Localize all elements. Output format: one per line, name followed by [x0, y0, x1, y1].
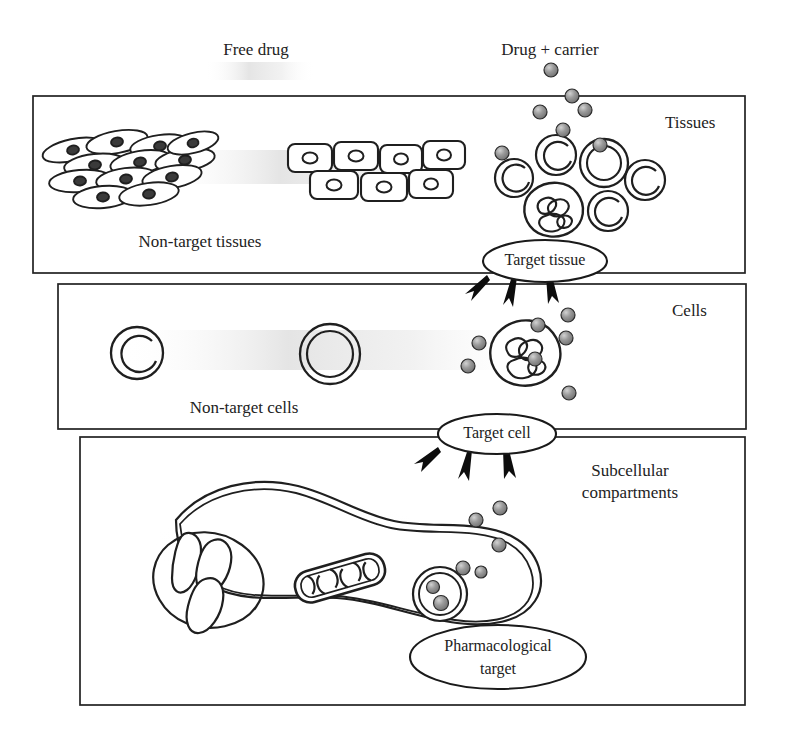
bubble-label-pharmacological-target-line2: target — [480, 660, 516, 678]
figure-canvas: Free drug Drug + carrier Tissues Non-tar… — [0, 0, 785, 748]
bubble-label-target-cell: Target cell — [463, 424, 530, 442]
target-tissue-cells — [495, 135, 665, 237]
drug-carrier-particles-tissue — [495, 63, 607, 160]
subcellular-endosome — [413, 567, 467, 621]
label-drug-carrier: Drug + carrier — [501, 40, 598, 60]
crescent-cell — [625, 160, 665, 200]
panel-label-subcellular-line2: compartments — [582, 483, 678, 503]
label-non-target-tissues: Non-target tissues — [139, 232, 262, 252]
non-target-fibroblast-cluster — [40, 126, 220, 211]
panel-label-tissues: Tissues — [665, 113, 715, 133]
bubble-label-pharmacological-target-line1: Pharmacological — [444, 637, 552, 655]
crescent-cell — [588, 191, 628, 231]
bubble-label-target-tissue: Target tissue — [505, 251, 586, 269]
target-cell-body — [490, 320, 560, 385]
pharmacological-target-bubble — [410, 625, 586, 689]
label-free-drug: Free drug — [223, 40, 289, 60]
lobed-nucleus-cell — [524, 183, 583, 237]
panel-label-subcellular-line1: Subcellular — [591, 461, 668, 481]
crescent-cell — [495, 159, 533, 197]
crescent-cell — [536, 135, 576, 175]
panel-label-cells: Cells — [672, 301, 707, 321]
label-non-target-cells: Non-target cells — [190, 398, 299, 418]
